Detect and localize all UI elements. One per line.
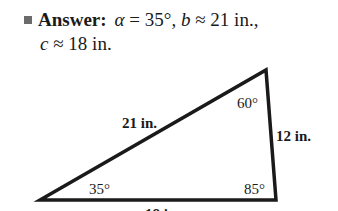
side-label-bottom: 18 in. (145, 206, 180, 211)
angle-label-bottom-left: 35° (89, 181, 110, 197)
angle-label-top: 60° (237, 95, 258, 111)
triangle-diagram: 21 in. 12 in. 18 in. 60° 35° 85° (0, 0, 338, 211)
triangle-shape (40, 70, 276, 200)
angle-label-bottom-right: 85° (244, 181, 265, 197)
side-label-right: 12 in. (276, 128, 311, 144)
side-label-hypotenuse: 21 in. (122, 115, 157, 131)
